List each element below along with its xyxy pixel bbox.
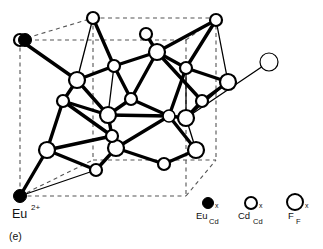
crystal-structure-diagram: Eu 2+ (e) x Eu Cd x Cd Cd (0, 0, 323, 249)
bond-thin (77, 18, 93, 80)
legend-cd-superscript: x (259, 202, 263, 209)
bond-thick (108, 115, 169, 116)
eu-charge-label: Eu 2+ (12, 203, 40, 221)
bonds-thin (20, 18, 269, 196)
eu-charge-element: Eu (12, 207, 27, 221)
atom-F (220, 74, 236, 90)
legend-eu-superscript: x (215, 202, 219, 209)
bond-thick (157, 52, 202, 101)
atoms-europium (14, 34, 32, 203)
legend-marker-open-circle-small (245, 197, 257, 209)
atom-Cd (210, 14, 222, 26)
bond-thin (216, 20, 228, 82)
bond-thick (116, 116, 169, 148)
eu-charge-superscript: 2+ (31, 203, 40, 212)
legend-f-superscript: x (305, 202, 309, 209)
bond-thick (47, 136, 112, 150)
atom-Cd (140, 28, 152, 40)
atom-Cd (87, 12, 99, 24)
atom-F (188, 142, 204, 158)
atom-F-outer (260, 53, 278, 71)
legend-item-f: x F F (287, 194, 309, 226)
bond-thick (93, 18, 114, 66)
atom-Cd (57, 95, 69, 107)
legend: x Eu Cd x Cd Cd x F F (196, 194, 309, 226)
legend-cd-symbol: Cd (238, 210, 250, 221)
legend-f-symbol: F (288, 210, 294, 221)
legend-cd-site: Cd (253, 217, 263, 226)
legend-item-eu: x Eu Cd (196, 198, 219, 227)
atom-Cd (196, 95, 208, 107)
atom-F (69, 72, 85, 88)
atom-Cd-occluded (163, 110, 175, 122)
legend-marker-filled-circle (203, 198, 214, 209)
atom-Cd (106, 130, 118, 142)
legend-eu-site: Cd (209, 217, 219, 226)
atom-Cd (90, 164, 102, 176)
atom-Cd (180, 62, 192, 74)
atom-F (100, 107, 116, 123)
atom-Cd (108, 60, 120, 72)
atom-Eu (19, 34, 32, 47)
atom-F (149, 44, 165, 60)
crystal-structure-figure: Eu 2+ (e) x Eu Cd x Cd Cd (0, 0, 323, 249)
legend-item-cd: x Cd Cd (238, 197, 263, 226)
cell-edge-conn-br (186, 160, 216, 196)
figure-caption: (e) (9, 230, 22, 242)
atom-Eu (14, 190, 27, 203)
atom-Cd (158, 158, 170, 170)
legend-eu-symbol: Eu (196, 210, 208, 221)
atom-F (178, 110, 194, 126)
legend-marker-open-circle-large (287, 194, 303, 210)
bonds-thick (20, 18, 228, 196)
atom-Cd (125, 93, 137, 105)
legend-f-site: F (296, 217, 301, 226)
atom-F (39, 142, 55, 158)
